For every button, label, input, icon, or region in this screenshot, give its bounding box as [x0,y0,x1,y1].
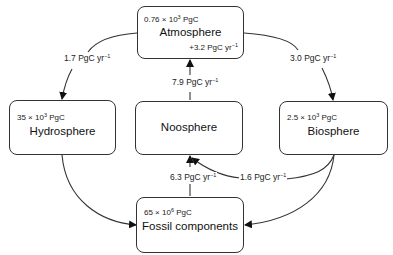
atmosphere-label: Atmosphere [138,26,243,38]
flow-label-noosphere-to-atmosphere: 7.9 PgC yr−1 [171,77,219,87]
fossil-components-label: Fossil components [137,220,243,232]
atmosphere-growth-rate: +3.2 PgC yr−1 [189,42,238,52]
arrow-hydrosphere-to-fossil [62,155,136,225]
biosphere-carbon-stock: 2.5 × 103 PgC [287,112,337,122]
noosphere-label: Noosphere [136,121,242,133]
flow-label-biosphere-to-noosphere: 1.6 PgC yr−1 [239,172,287,182]
hydrosphere-carbon-stock: 35 × 103 PgC [17,112,65,122]
arrow-atmosphere-to-biosphere [244,33,298,50]
fossil-carbon-stock: 65 × 106 PgC [144,207,192,217]
node-noosphere: Noosphere [135,101,243,155]
node-atmosphere: 0.76 × 103 PgC Atmosphere +3.2 PgC yr−1 [137,6,244,59]
biosphere-label: Biosphere [280,125,387,137]
arrow-atmosphere-to-hydrosphere [88,33,137,52]
arrow-biosphere-to-noosphere [286,155,334,179]
node-biosphere: 2.5 × 103 PgC Biosphere [279,101,388,155]
node-hydrosphere: 35 × 103 PgC Hydrosphere [9,100,116,155]
hydrosphere-label: Hydrosphere [10,125,115,137]
flow-label-fossil-to-noosphere: 6.3 PgC yr−1 [169,172,217,182]
node-fossil-components: 65 × 106 PgC Fossil components [136,197,244,253]
flow-label-atmosphere-to-biosphere: 3.0 PgC yr−1 [289,53,337,63]
flow-label-atmosphere-to-hydrosphere: 1.7 PgC yr−1 [63,53,111,63]
atmosphere-carbon-stock: 0.76 × 103 PgC [144,14,198,24]
arrow-biosphere-to-fossil [245,155,334,225]
